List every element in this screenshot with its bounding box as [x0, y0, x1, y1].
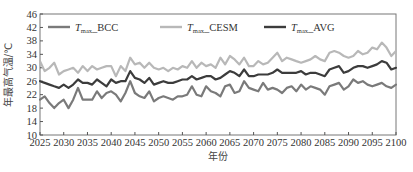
x-tick-label: 2075 — [267, 137, 288, 148]
y-tick-label: 22 — [27, 89, 38, 100]
y-axis: 10141822263034384246 — [27, 9, 44, 141]
y-tick-label: 26 — [27, 76, 38, 87]
x-tick-label: 2095 — [362, 137, 383, 148]
x-tick-label: 2035 — [77, 137, 98, 148]
x-tick-label: 2040 — [101, 137, 122, 148]
y-tick-label: 18 — [27, 103, 38, 114]
x-tick-label: 2060 — [196, 137, 217, 148]
x-tick-label: 2050 — [148, 137, 169, 148]
x-tick-label: 2065 — [219, 137, 240, 148]
x-tick-label: 2090 — [338, 137, 359, 148]
legend-label: Tmax_AVG — [291, 22, 335, 34]
x-tick-label: 2025 — [30, 137, 51, 148]
y-tick-label: 14 — [27, 116, 38, 127]
x-tick-label: 2070 — [243, 137, 264, 148]
y-tick-label: 46 — [27, 9, 38, 20]
x-tick-label: 2100 — [386, 137, 407, 148]
y-tick-label: 38 — [27, 35, 38, 46]
line-chart: 10141822263034384246 2025203020352040204… — [0, 0, 413, 172]
x-tick-label: 2055 — [172, 137, 193, 148]
y-tick-label: 30 — [27, 62, 38, 73]
y-tick-label: 42 — [27, 22, 38, 33]
y-tick-label: 34 — [27, 49, 38, 60]
legend-label: Tmax_CESM — [187, 22, 239, 34]
x-axis-title: 年份 — [208, 150, 228, 162]
x-tick-label: 2030 — [53, 137, 74, 148]
series-layer — [40, 43, 396, 109]
y-axis-title: 年最高气温/℃ — [2, 43, 14, 108]
x-tick-label: 2045 — [124, 137, 145, 148]
legend-label: Tmax_BCC — [75, 22, 118, 34]
x-tick-label: 2080 — [291, 137, 312, 148]
legend: Tmax_BCCTmax_CESMTmax_AVG — [48, 22, 335, 34]
x-axis: 2025203020352040204520502055206020652070… — [30, 132, 407, 148]
x-tick-label: 2085 — [314, 137, 335, 148]
